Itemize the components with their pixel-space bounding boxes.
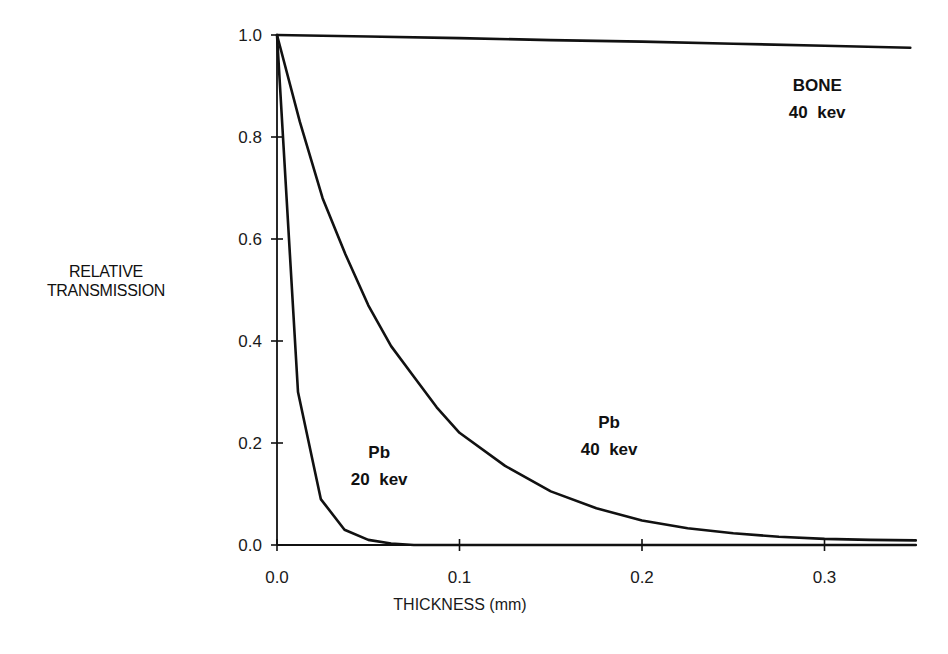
y-tick-label: 0.4 bbox=[238, 332, 262, 351]
label-pb-20-kev-line-2: 20 kev bbox=[351, 470, 408, 489]
label-pb-40-kev-line-1: Pb bbox=[598, 413, 620, 432]
label-bone-40-kev-line-1: BONE bbox=[793, 76, 842, 95]
y-tick-label: 0.2 bbox=[238, 434, 262, 453]
y-tick-label: 1.0 bbox=[238, 26, 262, 45]
curve-labels: BONE40 kevPb40 kevPb20 kev bbox=[351, 76, 846, 489]
transmission-chart: 0.00.10.20.30.00.20.40.60.81.0 BONE40 ke… bbox=[0, 0, 948, 654]
x-tick-label: 0.3 bbox=[813, 568, 837, 587]
label-pb-40-kev-line-2: 40 kev bbox=[581, 440, 638, 459]
y-tick-label: 0.0 bbox=[238, 536, 262, 555]
label-bone-40-kev: BONE40 kev bbox=[789, 76, 846, 122]
x-tick-label: 0.2 bbox=[630, 568, 654, 587]
y-tick-label: 0.8 bbox=[238, 128, 262, 147]
x-tick-label: 0.0 bbox=[265, 568, 289, 587]
label-pb-20-kev: Pb20 kev bbox=[351, 443, 408, 489]
curve-bone-40-kev bbox=[277, 35, 910, 48]
x-tick-label: 0.1 bbox=[448, 568, 472, 587]
label-bone-40-kev-line-2: 40 kev bbox=[789, 103, 846, 122]
label-pb-40-kev: Pb40 kev bbox=[581, 413, 638, 459]
label-pb-20-kev-line-1: Pb bbox=[368, 443, 390, 462]
x-axis-title: THICKNESS (mm) bbox=[393, 596, 526, 613]
y-tick-label: 0.6 bbox=[238, 230, 262, 249]
